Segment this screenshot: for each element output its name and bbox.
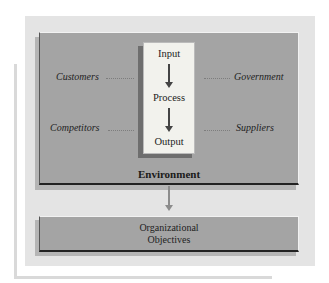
connector-government — [204, 78, 230, 79]
process-box: Input Process Output — [143, 42, 195, 154]
objectives-line-1: Organizational — [40, 222, 298, 234]
environment-label: Environment — [40, 168, 298, 180]
factor-suppliers: Suppliers — [236, 122, 274, 133]
factor-government: Government — [234, 71, 283, 82]
objectives-box: Organizational Objectives — [39, 216, 299, 252]
factor-customers: Customers — [56, 71, 99, 82]
objectives-line-2: Objectives — [40, 234, 298, 246]
step-input: Input — [144, 48, 194, 59]
connector-competitors — [108, 130, 134, 131]
factor-competitors: Competitors — [50, 122, 99, 133]
arrow-down-icon — [168, 186, 170, 207]
connector-suppliers — [204, 130, 230, 131]
arrow-down-icon — [168, 108, 170, 127]
arrow-down-icon — [168, 64, 170, 83]
step-process: Process — [144, 92, 194, 103]
connector-customers — [106, 78, 134, 79]
step-output: Output — [144, 136, 194, 147]
